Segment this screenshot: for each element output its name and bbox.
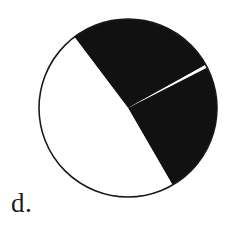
- pie-slices: [39, 19, 217, 197]
- figure-label: d.: [11, 190, 32, 217]
- pie-figure: d.: [0, 0, 241, 237]
- pie-chart-svg: [0, 0, 241, 237]
